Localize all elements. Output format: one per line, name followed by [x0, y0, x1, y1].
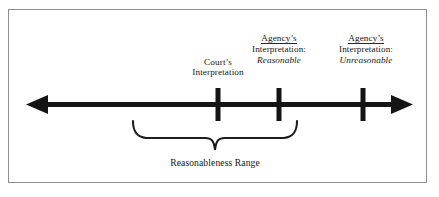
label-agency-reasonable-line2: Interpretation: [239, 44, 319, 54]
label-reasonableness-range: Reasonableness Range [125, 158, 305, 169]
figure-caption [0, 186, 439, 197]
label-agency-reasonable: Agency’s Interpretation: Reasonable [239, 33, 319, 65]
label-agency-unreasonable: Agency’s Interpretation: Unreasonable [322, 33, 410, 65]
label-agency-unreasonable-line2: Interpretation: [322, 44, 410, 54]
label-agency-unreasonable-line1: Agency’s [322, 33, 410, 44]
label-agency-unreasonable-line3: Unreasonable [322, 55, 410, 65]
figure-container: Court’s Interpretation Agency’s Interpre… [0, 0, 439, 197]
label-court-line2: Interpretation [178, 67, 258, 77]
label-agency-reasonable-line3: Reasonable [239, 55, 319, 65]
label-agency-reasonable-line1: Agency’s [239, 33, 319, 44]
